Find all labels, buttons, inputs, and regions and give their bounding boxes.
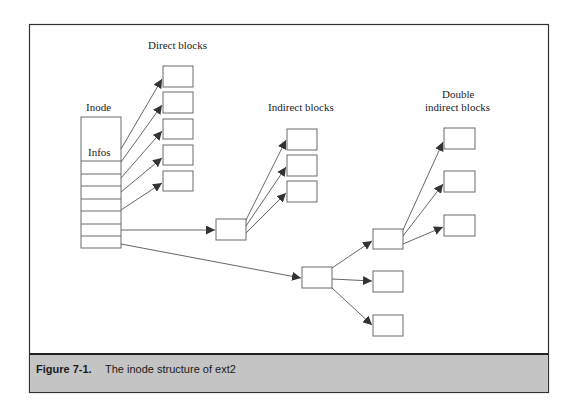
inode-structure-figure: Figure 7-1. The inode structure of ext2 … [0,0,574,411]
indirect-data-block [287,155,317,176]
direct-block [163,92,193,113]
indirect-data-block [287,129,317,150]
direct-block [163,171,193,191]
caption-text: The inode structure of ext2 [105,363,236,375]
double-indirect-data-block [444,215,475,236]
direct-block [163,119,193,139]
caption-band: Figure 7-1. The inode structure of ext2 [30,354,549,393]
label-double-indirect-2: indirect blocks [425,101,490,113]
indirect-data-block [287,181,317,202]
double-indirect-l2-block [373,271,403,292]
indirect-pointer-block [216,219,246,240]
direct-block [163,145,193,165]
label-indirect-blocks: Indirect blocks [268,101,334,113]
caption-number: Figure 7-1. [36,363,92,375]
double-indirect-l1-block [302,267,332,288]
double-indirect-l2-block [373,315,403,336]
label-inode: Inode [86,101,111,113]
double-indirect-l2-block [373,229,403,249]
label-direct-blocks: Direct blocks [148,39,207,51]
inode-table: Infos [81,117,121,248]
direct-block [163,66,193,87]
double-indirect-data-block [444,128,475,149]
label-infos: Infos [88,146,111,158]
label-double-indirect-1: Double [442,88,475,100]
double-indirect-data-block [444,171,475,192]
